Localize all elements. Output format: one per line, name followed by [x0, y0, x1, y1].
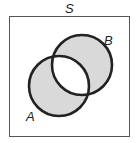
- venn-diagram: S B A: [0, 0, 139, 143]
- set-a-label: A: [25, 109, 35, 124]
- universe-label: S: [65, 1, 74, 16]
- set-b-label: B: [104, 33, 113, 48]
